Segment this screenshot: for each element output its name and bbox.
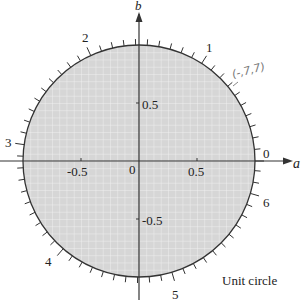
circle-tick (41, 88, 46, 92)
circle-tick (30, 212, 35, 215)
circle-tick (67, 62, 71, 67)
tick-label-half-h: 0.5 (188, 164, 204, 179)
circle-tick (235, 92, 240, 95)
circle-tick (79, 262, 82, 267)
circle-tick (102, 271, 104, 277)
circle-tick (100, 46, 102, 52)
unit-circle-diagram: a b -0.5 0 0.5 0.5 -0.5 0 1 2 3 4 5 6 (-… (0, 0, 303, 308)
circle-tick (77, 56, 80, 61)
circle-tick (161, 275, 162, 281)
circle-tick (242, 215, 247, 218)
figure-title: Unit circle (222, 273, 277, 288)
tick-label-neg-half-h: -0.5 (67, 164, 88, 179)
circle-tick (149, 277, 150, 283)
circle-tick (111, 42, 112, 48)
circle-tick (202, 56, 207, 64)
circle-tick (113, 274, 114, 280)
tick-label-neg-half-v: -0.5 (142, 213, 163, 228)
circle-tick (57, 249, 63, 256)
circle-tick (15, 143, 24, 144)
circle-tick (123, 40, 124, 46)
circle-tick (253, 182, 259, 183)
circle-tick (87, 47, 91, 55)
circle-mark-0: 0 (263, 146, 270, 161)
circle-tick (247, 204, 253, 206)
circle-tick (24, 120, 30, 122)
circle-tick (192, 52, 195, 57)
circle-tick (203, 258, 206, 263)
circle-tick (19, 179, 25, 180)
circle-tick (254, 149, 260, 150)
circle-tick (125, 276, 126, 282)
circle-tick (49, 79, 53, 83)
circle-tick (183, 268, 185, 274)
circle-tick (211, 65, 215, 70)
circle-tick (220, 73, 224, 77)
annotation-text: (-,7,7) (231, 60, 267, 81)
circle-tick (172, 272, 175, 281)
circle-tick (253, 137, 259, 138)
circle-tick (25, 202, 31, 204)
circle-tick (50, 241, 54, 245)
circle-mark-2: 2 (82, 30, 89, 45)
circle-mark-5: 5 (172, 287, 179, 302)
circle-tick (246, 113, 252, 115)
circle-tick (21, 191, 27, 193)
circle-tick (34, 98, 39, 101)
circle-tick (193, 263, 196, 268)
circle-tick (213, 251, 217, 256)
circle-tick (241, 103, 246, 106)
circle-tick (236, 225, 241, 228)
circle-tick (43, 232, 48, 236)
circle-tick (36, 222, 41, 225)
circle-tick (181, 47, 183, 53)
circle-tick (170, 43, 172, 49)
circle-tick (58, 70, 62, 74)
circle-tick (69, 256, 72, 261)
circle-tick (221, 243, 225, 247)
circle-tick (250, 125, 256, 127)
circle-mark-1: 1 (206, 40, 213, 55)
b-axis-arrow-icon (136, 12, 143, 22)
circle-tick (159, 41, 160, 47)
circle-mark-4: 4 (45, 254, 52, 269)
tick-label-origin: 0 (129, 162, 136, 177)
circle-tick (29, 109, 34, 112)
circle-tick (90, 267, 92, 272)
circle-tick (228, 82, 233, 86)
circle-mark-6: 6 (263, 195, 270, 210)
circle-tick (21, 132, 27, 133)
circle-mark-3: 3 (5, 135, 12, 150)
circle-tick (229, 234, 234, 238)
circle-tick (250, 193, 259, 196)
tick-label-half-v: 0.5 (142, 97, 158, 112)
b-axis-label: b (135, 0, 142, 13)
a-axis-label: a (293, 156, 300, 171)
handwritten-annotation: (-,7,7) (231, 60, 267, 86)
a-axis-arrow-icon (283, 158, 293, 165)
